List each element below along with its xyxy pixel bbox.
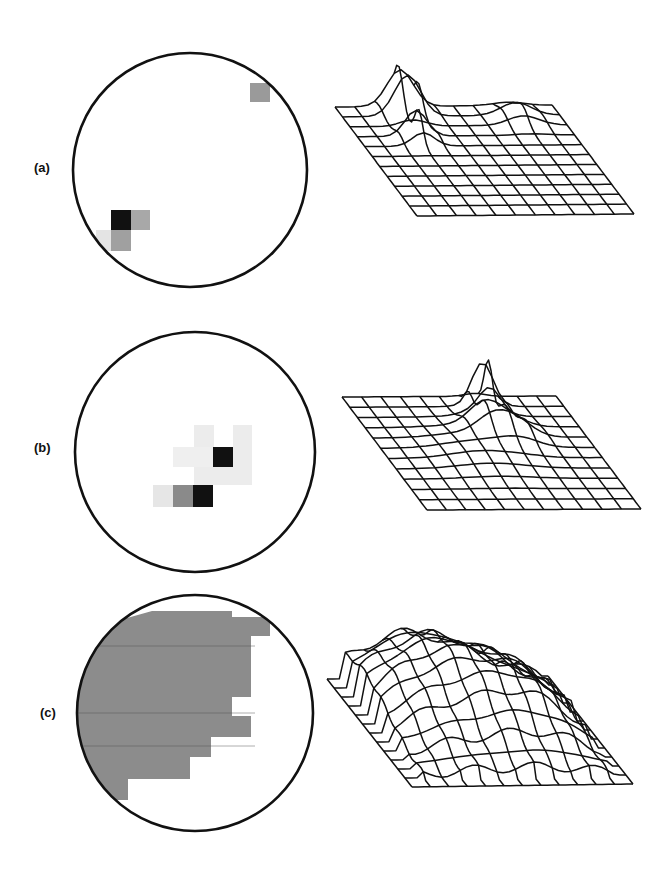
active-region [76, 611, 270, 800]
grid-row-line [427, 509, 641, 510]
grid-row-line [372, 155, 589, 157]
grid-col-line [556, 396, 641, 509]
panel-label-c: (c) [40, 705, 56, 720]
pixel-map-b [75, 332, 315, 572]
grid-row-line [342, 394, 556, 397]
grid-col-line [537, 396, 622, 509]
panel-c: (c) [40, 595, 633, 831]
grid-col-line [517, 396, 602, 509]
pixel-cell [153, 485, 173, 507]
grid-row-line [412, 488, 626, 489]
grid-row-line [373, 410, 587, 438]
pixel-cell [173, 485, 193, 507]
grid-row-line [350, 116, 567, 127]
grid-row-line [343, 75, 560, 117]
pixel-cell [194, 467, 252, 485]
pixel-map-c [76, 595, 313, 831]
grid-col-line [382, 638, 467, 786]
pixel-cell [111, 230, 131, 251]
grid-col-line [552, 105, 634, 214]
grid-row-line [388, 451, 602, 459]
grid-col-line [513, 102, 595, 214]
grid-row-line [404, 476, 618, 479]
grid-col-line [493, 661, 578, 785]
surface-plot-a [335, 65, 634, 216]
grid-row-line [396, 463, 610, 469]
pixel-cell [194, 425, 214, 447]
panel-label-b: (b) [34, 440, 51, 455]
grid-row-line [419, 499, 633, 500]
pixel-cell [233, 447, 252, 467]
grid-row-line [417, 214, 634, 216]
grid-row-line [335, 70, 552, 107]
grid-col-line [453, 106, 535, 215]
figure: (a) (b) (c) [0, 0, 670, 879]
grid-col-line [335, 107, 417, 216]
panel-label-a: (a) [34, 160, 50, 175]
grid-row-line [350, 364, 564, 407]
grid-row-line [395, 184, 612, 186]
grid-col-line [394, 65, 476, 215]
grid-col-line [473, 106, 555, 215]
panel-b: (b) [34, 332, 641, 572]
pixel-cell [173, 447, 213, 467]
surface-plot-c [327, 628, 633, 787]
grid-col-line [548, 676, 633, 784]
grid-row-line [410, 204, 627, 206]
pixel-cell [193, 485, 213, 507]
pixel-cell [250, 83, 270, 102]
pixel-cell [111, 210, 131, 230]
grid-row-line [334, 632, 555, 688]
panel-a: (a) [34, 53, 634, 287]
detector-outline [73, 53, 307, 287]
surface-plot-b [342, 360, 641, 510]
grid-row-line [358, 388, 572, 418]
pixel-cell [131, 210, 150, 230]
grid-col-line [355, 107, 437, 216]
grid-col-line [420, 397, 505, 510]
pixel-map-a [73, 53, 307, 287]
pixel-cell [233, 425, 252, 447]
grid-row-line [387, 174, 604, 176]
grid-row-line [402, 194, 619, 196]
grid-row-line [380, 165, 597, 167]
pixel-cell [213, 447, 233, 467]
